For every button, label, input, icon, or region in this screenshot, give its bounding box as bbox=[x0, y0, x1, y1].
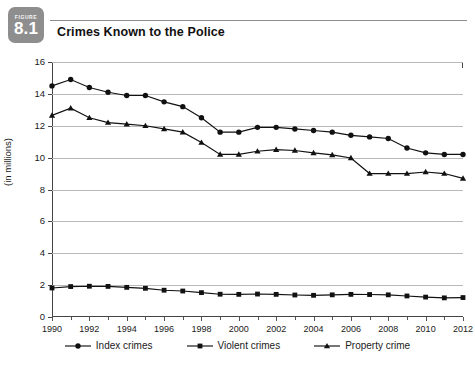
x-tick-label: 2010 bbox=[416, 324, 436, 334]
triangle-marker-icon bbox=[314, 341, 340, 351]
y-tick-label: 8 bbox=[40, 185, 45, 194]
x-tick bbox=[388, 317, 389, 321]
data-point bbox=[367, 292, 372, 297]
x-tick bbox=[407, 317, 408, 320]
data-point bbox=[292, 126, 297, 131]
y-tick-label: 6 bbox=[40, 216, 45, 225]
legend-item-property-crime[interactable]: Property crime bbox=[314, 340, 410, 351]
data-point bbox=[86, 115, 92, 120]
data-point bbox=[199, 290, 204, 295]
data-point bbox=[311, 293, 316, 298]
y-tick-label: 0 bbox=[40, 312, 45, 321]
x-tick bbox=[332, 317, 333, 320]
data-point bbox=[68, 284, 73, 289]
data-point bbox=[199, 115, 204, 120]
data-point bbox=[330, 292, 335, 297]
x-tick bbox=[145, 317, 146, 320]
circle-marker-icon bbox=[65, 341, 91, 351]
figure-badge-number: 8.1 bbox=[14, 20, 38, 37]
data-point bbox=[330, 129, 335, 134]
x-tick-label: 1992 bbox=[79, 324, 99, 334]
data-point bbox=[198, 139, 204, 144]
data-point bbox=[68, 77, 73, 82]
x-tick-label: 1990 bbox=[42, 324, 62, 334]
data-point bbox=[124, 285, 129, 290]
data-point bbox=[106, 284, 111, 289]
data-point bbox=[50, 286, 55, 291]
y-tick-label: 10 bbox=[34, 153, 45, 162]
x-tick bbox=[127, 317, 128, 321]
data-point bbox=[423, 169, 429, 174]
data-point bbox=[236, 292, 241, 297]
chart-title: Crimes Known to the Police bbox=[57, 25, 225, 39]
data-point bbox=[143, 93, 148, 98]
y-tick-label: 2 bbox=[40, 280, 45, 289]
x-tick-label: 2004 bbox=[304, 324, 324, 334]
data-point bbox=[218, 292, 223, 297]
data-point bbox=[274, 292, 279, 297]
data-point bbox=[49, 83, 54, 88]
x-tick bbox=[201, 317, 202, 321]
series-violent-crimes bbox=[50, 284, 466, 300]
legend-label: Index crimes bbox=[96, 340, 153, 351]
data-point bbox=[386, 136, 391, 141]
x-tick bbox=[314, 317, 315, 321]
data-series-layer bbox=[52, 62, 463, 317]
data-point bbox=[68, 105, 74, 110]
x-tick-label: 2012 bbox=[453, 324, 473, 334]
y-tick-label: 12 bbox=[34, 121, 45, 130]
data-point bbox=[143, 286, 148, 291]
y-tick-label: 16 bbox=[34, 57, 45, 66]
data-point bbox=[273, 125, 278, 130]
x-tick bbox=[183, 317, 184, 320]
figure-container: FIGURE 8.1 Crimes Known to the Police 02… bbox=[0, 0, 475, 371]
y-tick-label: 14 bbox=[34, 89, 45, 98]
data-point bbox=[255, 125, 260, 130]
data-point bbox=[423, 295, 428, 300]
x-tick-label: 1996 bbox=[154, 324, 174, 334]
data-point bbox=[255, 292, 260, 297]
series-property-crime bbox=[49, 105, 466, 181]
data-point bbox=[349, 292, 354, 297]
data-point bbox=[442, 295, 447, 300]
x-tick bbox=[463, 317, 464, 321]
x-tick-label: 1994 bbox=[117, 324, 137, 334]
x-tick-label: 2006 bbox=[341, 324, 361, 334]
x-tick-label: 2000 bbox=[229, 324, 249, 334]
x-tick bbox=[426, 317, 427, 321]
data-point bbox=[105, 90, 110, 95]
data-point bbox=[405, 294, 410, 299]
x-tick bbox=[258, 317, 259, 320]
data-point bbox=[180, 289, 185, 294]
x-tick bbox=[164, 317, 165, 321]
legend-label: Property crime bbox=[345, 340, 410, 351]
data-point bbox=[460, 152, 465, 157]
figure-badge: FIGURE 8.1 bbox=[8, 7, 44, 43]
data-point bbox=[162, 288, 167, 293]
x-tick bbox=[89, 317, 90, 321]
data-point bbox=[442, 152, 447, 157]
data-point bbox=[217, 129, 222, 134]
x-tick bbox=[220, 317, 221, 320]
x-tick bbox=[52, 317, 53, 321]
chart-legend: Index crimesViolent crimesProperty crime bbox=[0, 340, 475, 351]
data-point bbox=[367, 134, 372, 139]
plot-area: 0246810121416 19901992199419961998200020… bbox=[52, 62, 463, 317]
data-point bbox=[292, 293, 297, 298]
x-tick bbox=[444, 317, 445, 320]
data-point bbox=[404, 145, 409, 150]
data-point bbox=[75, 343, 80, 348]
x-tick bbox=[370, 317, 371, 320]
x-tick bbox=[71, 317, 72, 320]
legend-item-index-crimes[interactable]: Index crimes bbox=[65, 340, 153, 351]
x-tick bbox=[351, 317, 352, 321]
legend-item-violent-crimes[interactable]: Violent crimes bbox=[187, 340, 281, 351]
x-tick bbox=[276, 317, 277, 321]
title-divider bbox=[50, 20, 467, 21]
data-point bbox=[461, 295, 466, 300]
x-tick-label: 2002 bbox=[266, 324, 286, 334]
data-point bbox=[348, 133, 353, 138]
data-point bbox=[236, 129, 241, 134]
square-marker-icon bbox=[187, 341, 213, 351]
data-point bbox=[386, 292, 391, 297]
